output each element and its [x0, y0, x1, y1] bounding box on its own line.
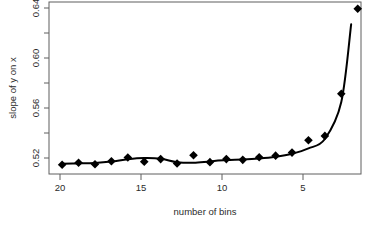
x-tick-label-3: 5: [300, 182, 305, 193]
y-tick-label-0: 0.64: [30, 0, 41, 17]
x-axis-title: number of bins: [174, 206, 237, 217]
y-tick-label-2: 0.56: [30, 99, 41, 118]
y-tick-labels: 0.64 0.60 0.56 0.52: [30, 0, 41, 167]
chart-figure: 0.64 0.60 0.56 0.52 slope of y on x 20 1…: [0, 0, 368, 228]
scatter-plot: 0.64 0.60 0.56 0.52 slope of y on x 20 1…: [0, 0, 368, 228]
y-tick-label-3: 0.52: [30, 149, 41, 168]
y-axis-ticks: [44, 8, 49, 158]
plot-panel: [49, 2, 361, 174]
x-tick-label-1: 15: [136, 182, 147, 193]
x-tick-label-0: 20: [55, 182, 66, 193]
x-tick-label-2: 10: [217, 182, 228, 193]
y-tick-label-1: 0.60: [30, 49, 41, 68]
y-axis-title: slope of y on x: [7, 57, 18, 119]
x-axis-ticks: [60, 174, 303, 180]
x-tick-labels: 20 15 10 5: [55, 182, 306, 193]
